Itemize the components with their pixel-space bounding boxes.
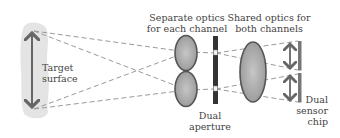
sensor-top-half (298, 41, 302, 71)
dual-aperture-bar (213, 36, 218, 104)
dual-aperture-label: Dual aperture (180, 110, 240, 132)
bottom-channel-lens (175, 72, 197, 107)
sensor-chip-label: Dual sensor chip (290, 94, 328, 127)
top-channel-lens (175, 36, 197, 71)
aperture-opening-bottom (214, 86, 218, 91)
shared-optics-label: Shared optics for both channels (216, 12, 322, 34)
target-surface-label: Target surface (42, 62, 78, 84)
aperture-opening-top (214, 50, 218, 55)
shared-lens (240, 42, 266, 102)
